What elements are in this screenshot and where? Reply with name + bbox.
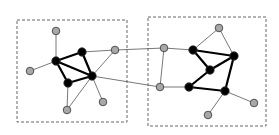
core-node-R7 xyxy=(206,66,214,74)
background xyxy=(0,0,279,135)
peripheral-node-R10 xyxy=(204,111,212,119)
core-node-L7 xyxy=(64,79,72,87)
peripheral-node-R9 xyxy=(250,99,258,107)
core-node-L2 xyxy=(52,57,60,65)
peripheral-node-R5 xyxy=(215,24,223,32)
peripheral-node-L1 xyxy=(52,27,60,35)
peripheral-node-L5 xyxy=(111,46,119,54)
peripheral-node-L9 xyxy=(99,98,107,106)
core-node-L6 xyxy=(88,72,96,80)
core-node-L4 xyxy=(78,48,86,56)
core-node-R8 xyxy=(221,87,229,95)
peripheral-node-R2 xyxy=(156,83,164,91)
peripheral-node-R1 xyxy=(160,44,168,52)
network-diagram xyxy=(0,0,279,135)
peripheral-node-L8 xyxy=(63,106,71,114)
core-node-R4 xyxy=(185,83,193,91)
core-node-R6 xyxy=(230,52,238,60)
core-node-R3 xyxy=(189,46,197,54)
peripheral-node-L3 xyxy=(26,67,34,75)
